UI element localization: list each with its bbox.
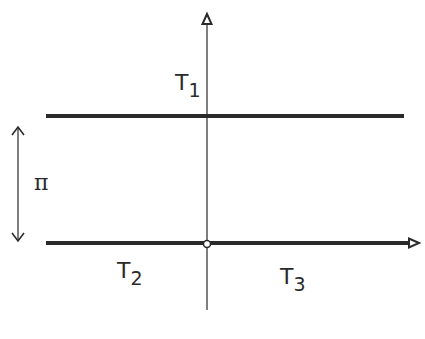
label-t2-base: T [117,258,130,283]
label-t3-base: T [280,264,293,289]
horizontal-axis-arrowhead-icon [409,239,419,248]
vertical-axis-arrowhead-icon [203,14,212,24]
label-t2: T2 [117,260,143,288]
label-t3: T3 [280,266,306,294]
label-t1: T1 [175,72,201,100]
label-t2-sub: 2 [130,267,142,289]
diagram-canvas [0,0,425,339]
label-t1-base: T [175,70,188,95]
label-t3-sub: 3 [293,273,305,295]
label-pi: π [34,170,48,195]
label-t1-sub: 1 [188,79,200,101]
origin-marker [204,241,211,248]
